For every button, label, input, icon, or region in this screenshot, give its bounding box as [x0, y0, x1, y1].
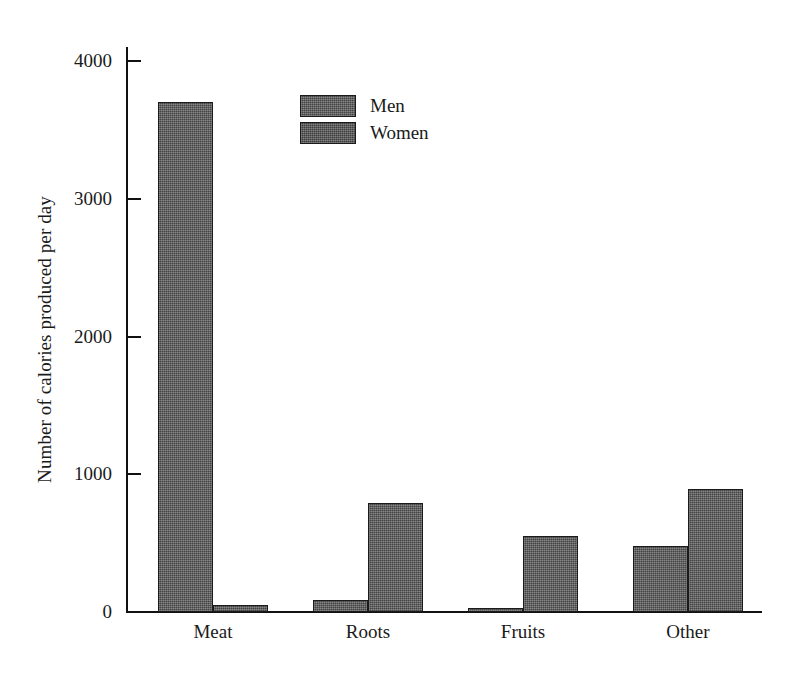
legend-swatch-women-icon	[300, 122, 356, 144]
x-axis-label-meat: Meat	[153, 621, 273, 643]
x-axis-label-roots: Roots	[308, 621, 428, 643]
chart-legend: Men Women	[300, 92, 429, 146]
y-axis-tick-label: 0	[42, 602, 112, 621]
bar-meat-women	[213, 605, 268, 612]
legend-item-men: Men	[300, 92, 429, 119]
x-axis-label-other: Other	[628, 621, 748, 643]
bars-layer	[126, 61, 762, 612]
bar-fruits-women	[523, 536, 578, 612]
bar-fruits-men	[468, 608, 523, 612]
legend-label-men: Men	[370, 96, 405, 115]
y-axis-tick-label: 4000	[42, 51, 112, 70]
bar-roots-men	[313, 600, 368, 612]
bar-other-men	[633, 546, 688, 612]
x-axis-label-fruits: Fruits	[463, 621, 583, 643]
y-axis-tick-label: 2000	[42, 327, 112, 346]
legend-swatch-men-icon	[300, 95, 356, 117]
bar-roots-women	[368, 503, 423, 612]
legend-label-women: Women	[370, 123, 429, 142]
bar-meat-men	[158, 102, 213, 612]
bar-chart-figure: Number of calories produced per day 0100…	[0, 0, 793, 679]
legend-item-women: Women	[300, 119, 429, 146]
y-axis-tick-label: 1000	[42, 464, 112, 483]
bar-other-women	[688, 489, 743, 612]
y-axis-tick-label: 3000	[42, 189, 112, 208]
